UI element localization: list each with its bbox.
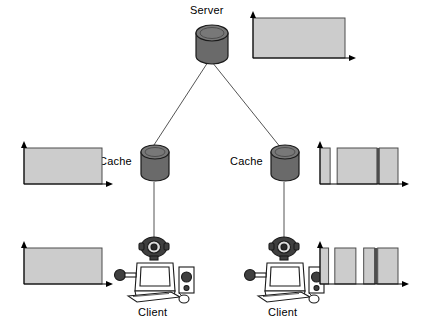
bar-segment [320, 148, 330, 184]
chart-plot-area [18, 140, 114, 192]
bar-segment [378, 248, 398, 284]
chart-client-left-in [18, 240, 114, 292]
x-axis-arrow [402, 281, 409, 287]
y-axis-arrow [21, 241, 27, 248]
diagram-canvas: Server Cache Cache [0, 0, 429, 332]
chart-cache-right-out [314, 140, 410, 192]
server-cylinder-icon [195, 24, 229, 66]
bar-segment [24, 248, 102, 284]
chart-plot-area [314, 140, 410, 192]
x-axis-arrow [349, 55, 356, 61]
bar-segment [335, 248, 356, 284]
x-axis-arrow [106, 281, 113, 287]
client-left-label: Client [138, 306, 167, 318]
y-axis-arrow [250, 11, 256, 18]
client-left-workstation-icon [114, 234, 198, 302]
chart-plot-area [314, 240, 410, 292]
client-right-label: Client [268, 306, 297, 318]
cache-right-label: Cache [230, 155, 263, 167]
chart-plot-area [247, 10, 357, 66]
bar-segment [379, 148, 398, 184]
bar-segment [24, 148, 102, 184]
chart-client-right-in [314, 240, 410, 292]
chart-server-out [247, 10, 357, 66]
bar-segment [364, 248, 375, 284]
y-axis-arrow [317, 141, 323, 148]
bar-segment [320, 248, 329, 284]
bar-segment [337, 148, 377, 184]
chart-plot-area [18, 240, 114, 292]
y-axis-arrow [317, 241, 323, 248]
server-label: Server [190, 4, 224, 16]
cache-left-cylinder-icon [140, 144, 170, 184]
chart-cache-left-out [18, 140, 114, 192]
bar-segment [253, 18, 345, 58]
x-axis-arrow [402, 181, 409, 187]
cache-right-cylinder-icon [270, 144, 300, 184]
link-server-to-cache-right [212, 62, 281, 148]
link-server-to-cache-left [152, 62, 208, 148]
x-axis-arrow [106, 181, 113, 187]
y-axis-arrow [21, 141, 27, 148]
